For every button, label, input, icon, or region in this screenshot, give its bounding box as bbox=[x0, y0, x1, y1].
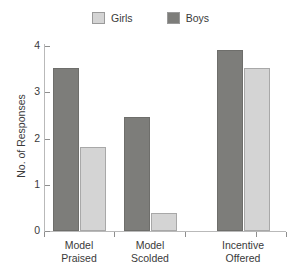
category-label-1: ModelScolded bbox=[107, 239, 193, 265]
bar-boys-incentive-offered bbox=[217, 50, 243, 231]
bar-girls-incentive-offered bbox=[244, 68, 270, 231]
category-label-2: IncentiveOffered bbox=[200, 239, 286, 265]
bar-girls-model-praised bbox=[80, 147, 106, 231]
y-tick-label-text: 4 bbox=[26, 40, 40, 51]
category-label-line1: Model bbox=[107, 239, 193, 252]
y-tick-4 bbox=[45, 46, 50, 47]
bar-boys-model-scolded bbox=[124, 117, 150, 231]
category-label-line1: Incentive bbox=[200, 239, 286, 252]
bar-girls-model-scolded bbox=[151, 213, 177, 232]
x-tick-0 bbox=[44, 232, 45, 237]
x-tick-4 bbox=[286, 232, 287, 237]
y-tick-3 bbox=[45, 92, 50, 93]
plot-area: No. of Responses 01234 ModelPraisedModel… bbox=[0, 0, 301, 275]
y-tick-label-2: 2 bbox=[24, 133, 40, 145]
category-label-line2: Offered bbox=[200, 252, 286, 265]
y-tick-label-text: 3 bbox=[26, 86, 40, 97]
y-tick-label-text: 1 bbox=[26, 179, 40, 190]
y-tick-label-4: 4 bbox=[24, 40, 40, 52]
x-tick-1 bbox=[114, 232, 115, 237]
category-label-line2: Scolded bbox=[107, 252, 193, 265]
y-tick-1 bbox=[45, 185, 50, 186]
y-tick-label-0: 0 bbox=[24, 225, 40, 237]
y-tick-2 bbox=[45, 139, 50, 140]
x-axis-line bbox=[44, 231, 286, 232]
y-tick-label-text: 0 bbox=[26, 225, 40, 236]
chart-figure: Girls Boys No. of Responses 01234 ModelP… bbox=[0, 0, 301, 275]
y-tick-0 bbox=[45, 231, 50, 232]
x-tick-3 bbox=[256, 232, 257, 237]
y-tick-label-text: 2 bbox=[26, 133, 40, 144]
y-tick-label-1: 1 bbox=[24, 179, 40, 191]
x-tick-2 bbox=[185, 232, 186, 237]
y-tick-label-3: 3 bbox=[24, 86, 40, 98]
bar-boys-model-praised bbox=[53, 68, 79, 231]
